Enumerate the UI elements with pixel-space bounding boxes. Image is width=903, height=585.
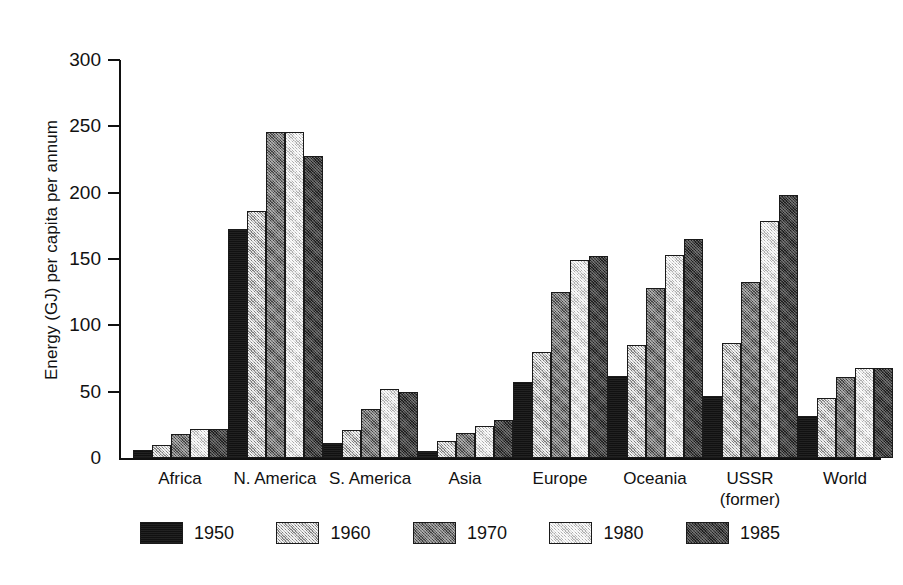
bar [608, 376, 627, 458]
bar [570, 260, 589, 458]
y-axis-tick-labels: 050100150200250300 [37, 0, 101, 585]
bar [437, 441, 456, 458]
legend-label: 1985 [740, 523, 780, 544]
bar [532, 352, 551, 458]
legend-item: 1960 [276, 522, 370, 544]
category-label-line1: Oceania [623, 469, 686, 488]
bar [152, 445, 171, 458]
bar [247, 211, 266, 458]
category-label-line1: Africa [158, 469, 201, 488]
legend-swatch [276, 522, 319, 544]
x-axis-category-label: World [775, 468, 903, 489]
bar-group [703, 60, 798, 458]
category-label-line1: Asia [448, 469, 481, 488]
legend-item: 1980 [549, 522, 643, 544]
bar [665, 255, 684, 458]
y-axis-tick-mark [108, 391, 120, 393]
legend-item: 1985 [686, 522, 780, 544]
bar-group [513, 60, 608, 458]
bar [399, 392, 418, 458]
bar [684, 239, 703, 458]
bar [817, 398, 836, 458]
bar-chart: Energy (GJ) per capita per annum 0501001… [0, 0, 903, 585]
bar [266, 132, 285, 458]
legend: 19501960197019801985 [140, 522, 780, 544]
y-axis-tick-mark [108, 258, 120, 260]
category-label-line1: World [823, 469, 867, 488]
bar [342, 430, 361, 458]
bar [855, 368, 874, 458]
y-axis-tick-label: 50 [41, 381, 101, 403]
bar [380, 389, 399, 458]
category-label-line1: Europe [533, 469, 588, 488]
bar-group [133, 60, 228, 458]
bar [228, 229, 247, 459]
bar [779, 195, 798, 458]
bar [760, 221, 779, 458]
bar [323, 443, 342, 458]
y-axis-tick-label: 100 [41, 314, 101, 336]
bar [209, 429, 228, 458]
bar [190, 429, 209, 458]
legend-label: 1960 [330, 523, 370, 544]
bar [285, 132, 304, 458]
category-label-line2: (former) [680, 489, 820, 510]
bar [836, 377, 855, 458]
plot-area [119, 60, 879, 458]
bar-group [608, 60, 703, 458]
legend-item: 1950 [140, 522, 234, 544]
bar-group [418, 60, 513, 458]
bar [627, 345, 646, 458]
legend-swatch [549, 522, 592, 544]
bar [456, 433, 475, 458]
bar [646, 288, 665, 458]
bar [798, 416, 817, 458]
bar [475, 426, 494, 458]
x-axis-line [119, 458, 881, 460]
bar [589, 256, 608, 458]
bar [722, 343, 741, 458]
legend-label: 1980 [603, 523, 643, 544]
bar [361, 409, 380, 458]
bar-group [323, 60, 418, 458]
y-axis-tick-mark [108, 324, 120, 326]
legend-swatch [140, 522, 183, 544]
bar-group [228, 60, 323, 458]
bar [513, 382, 532, 458]
category-label-line1: USSR [726, 469, 773, 488]
y-axis-tick-label: 0 [41, 447, 101, 469]
bar [551, 292, 570, 458]
bar [741, 282, 760, 458]
y-axis-tick-mark [108, 59, 120, 61]
y-axis-tick-label: 200 [41, 182, 101, 204]
bar [703, 396, 722, 458]
y-axis-tick-mark [108, 125, 120, 127]
y-axis-tick-label: 150 [41, 248, 101, 270]
bar [418, 451, 437, 458]
bar [171, 434, 190, 458]
bar [494, 420, 513, 458]
legend-item: 1970 [413, 522, 507, 544]
legend-swatch [686, 522, 729, 544]
legend-label: 1970 [467, 523, 507, 544]
legend-label: 1950 [194, 523, 234, 544]
y-axis-tick-mark [108, 192, 120, 194]
bar [874, 368, 893, 458]
legend-swatch [413, 522, 456, 544]
y-axis-tick-label: 250 [41, 115, 101, 137]
y-axis-tick-label: 300 [41, 49, 101, 71]
bar [133, 450, 152, 458]
bar-group [798, 60, 893, 458]
bar [304, 156, 323, 458]
